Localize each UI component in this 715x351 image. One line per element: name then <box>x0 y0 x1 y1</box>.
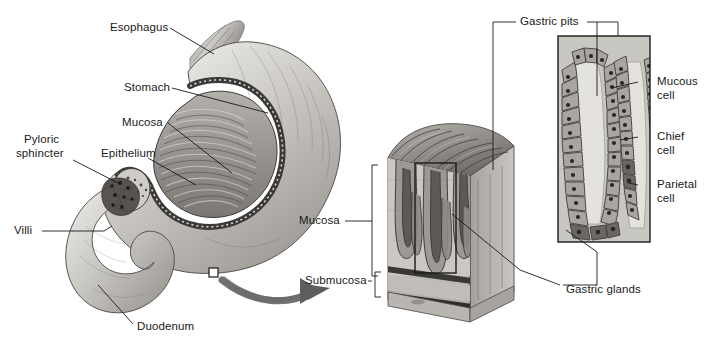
gastric-pit-cell-detail-art <box>558 36 655 242</box>
label-villi: Villi <box>14 224 32 237</box>
label-duodenum: Duodenum <box>137 320 194 333</box>
magnification-source-square <box>209 268 218 277</box>
stomach-sagittal-art <box>66 21 341 313</box>
bracket-gastric-pits-right-arm <box>587 22 618 36</box>
label-mucous-cell-line2: cell <box>657 89 675 102</box>
label-parietal-cell-line2: cell <box>657 192 675 205</box>
label-gastric-glands: Gastric glands <box>566 283 641 296</box>
label-pyloric-sphincter-line1: Pyloric <box>24 133 59 146</box>
label-mucosa-upper: Mucosa <box>122 116 163 129</box>
label-chief-cell-line1: Chief <box>657 130 684 143</box>
illustration-artwork <box>0 0 715 351</box>
label-epithelium: Epithelium <box>101 147 156 160</box>
label-pyloric-sphincter-line2: sphincter <box>16 147 64 160</box>
label-parietal-cell-line1: Parietal <box>657 178 697 191</box>
label-esophagus: Esophagus <box>110 21 168 34</box>
label-mucosa-block: Mucosa <box>299 214 340 227</box>
gastric-wall-block-art <box>386 124 514 322</box>
label-mucous-cell-line1: Mucous <box>657 75 698 88</box>
label-stomach: Stomach <box>124 81 170 94</box>
leader-pyloric-sphincter <box>73 160 120 184</box>
label-gastric-pits: Gastric pits <box>520 15 579 28</box>
bracket-mucosa-block <box>372 165 378 276</box>
label-chief-cell-line2: cell <box>657 144 675 157</box>
label-submucosa-block: Submucosa <box>305 274 367 287</box>
anatomy-figure: Esophagus Stomach Mucosa Epithelium Pylo… <box>0 0 715 351</box>
